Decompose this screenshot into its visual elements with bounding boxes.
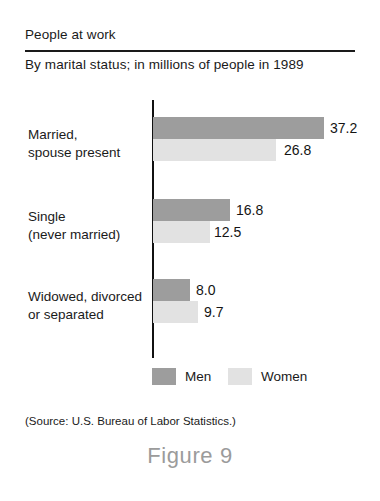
category-label-line2: (never married) xyxy=(28,226,148,244)
legend-swatch-men-icon xyxy=(152,368,176,385)
legend-label-women: Women xyxy=(261,369,307,384)
figure-caption: Figure 9 xyxy=(0,443,380,469)
bar-value-men-widowed: 8.0 xyxy=(196,279,215,301)
legend-swatch-women-icon xyxy=(228,368,252,385)
bar-women-single xyxy=(153,221,210,243)
legend-label-men: Men xyxy=(185,369,211,384)
bar-women-married xyxy=(153,139,276,161)
bar-men-married xyxy=(153,117,324,139)
category-label-line1: Widowed, divorced xyxy=(28,288,148,306)
bar-value-women-single: 12.5 xyxy=(214,221,241,243)
legend-item-women: Women xyxy=(228,366,307,386)
chart-legend: Men Women xyxy=(0,366,380,388)
category-label-married: Married, spouse present xyxy=(28,126,148,162)
category-label-line1: Single xyxy=(28,208,148,226)
bar-men-widowed xyxy=(153,279,190,301)
category-label-line2: or separated xyxy=(28,306,148,324)
plot-area: Married, spouse present 37.2 26.8 Single… xyxy=(0,98,380,360)
title-divider xyxy=(25,50,355,52)
chart-title: People at work xyxy=(25,27,116,42)
bar-value-men-married: 37.2 xyxy=(330,117,357,139)
chart-subtitle: By marital status; in millions of people… xyxy=(25,57,304,72)
bar-men-single xyxy=(153,199,230,221)
bar-value-women-widowed: 9.7 xyxy=(204,301,223,323)
category-label-line2: spouse present xyxy=(28,144,148,162)
legend-item-men: Men xyxy=(152,366,211,386)
bar-value-women-married: 26.8 xyxy=(284,139,311,161)
category-label-widowed: Widowed, divorced or separated xyxy=(28,288,148,324)
bar-value-men-single: 16.8 xyxy=(236,199,263,221)
category-label-single: Single (never married) xyxy=(28,208,148,244)
bar-women-widowed xyxy=(153,301,198,323)
category-label-line1: Married, xyxy=(28,126,148,144)
figure-container: People at work By marital status; in mil… xyxy=(0,0,380,501)
source-note: (Source: U.S. Bureau of Labor Statistics… xyxy=(25,415,236,427)
